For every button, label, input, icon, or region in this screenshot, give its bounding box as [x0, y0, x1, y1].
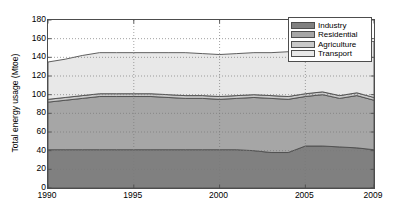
legend-swatch-icon — [291, 22, 315, 29]
legend-item-label: Industry — [318, 21, 346, 30]
x-tick-label: 1990 — [27, 190, 67, 200]
y-tick-label: 120 — [6, 71, 46, 80]
y-tick-label: 100 — [6, 90, 46, 99]
x-tick-label: 1995 — [113, 190, 153, 200]
legend-swatch-icon — [291, 41, 315, 48]
chart-legend: IndustryResidentialAgricultureTransport — [288, 17, 372, 62]
y-axis-label: Total energy usage (Mtoe) — [8, 19, 22, 187]
legend-item-transport[interactable]: Transport — [291, 49, 369, 58]
legend-item-label: Residential — [318, 30, 358, 39]
x-tick-label: 2005 — [284, 190, 324, 200]
area-band-industry — [48, 146, 374, 188]
chart-figure: Total energy usage (Mtoe) 02040608010012… — [0, 0, 395, 212]
legend-item-label: Agriculture — [318, 40, 356, 49]
area-band-residential — [48, 95, 374, 153]
legend-item-industry[interactable]: Industry — [291, 21, 369, 30]
legend-item-agriculture[interactable]: Agriculture — [291, 40, 369, 49]
y-tick-label: 40 — [6, 146, 46, 155]
y-tick-label: 20 — [6, 164, 46, 173]
legend-swatch-icon — [291, 50, 315, 57]
legend-item-residential[interactable]: Residential — [291, 30, 369, 39]
x-tick-label: 2000 — [199, 190, 239, 200]
y-tick-label: 180 — [6, 15, 46, 24]
x-tick-label: 2009 — [353, 190, 393, 200]
legend-swatch-icon — [291, 31, 315, 38]
y-tick-label: 140 — [6, 52, 46, 61]
legend-item-label: Transport — [318, 49, 352, 58]
y-tick-label: 160 — [6, 34, 46, 43]
y-tick-label: 60 — [6, 127, 46, 136]
y-tick-label: 80 — [6, 108, 46, 117]
